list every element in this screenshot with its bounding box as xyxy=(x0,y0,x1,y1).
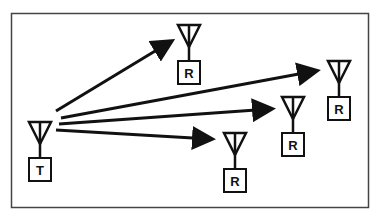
receiver-label: R xyxy=(230,174,240,189)
antenna-icon xyxy=(178,25,200,61)
signal-arrows xyxy=(56,42,315,139)
diagram-canvas: T R R R R xyxy=(0,0,377,216)
receiver-label: R xyxy=(334,102,344,117)
receiver-1: R xyxy=(178,25,200,84)
antenna-icon xyxy=(29,122,51,158)
antenna-icon xyxy=(224,133,246,169)
receiver-2: R xyxy=(328,61,350,120)
antenna-icon xyxy=(282,97,304,133)
receiver-3: R xyxy=(282,97,304,156)
transmitter-label: T xyxy=(36,163,44,178)
transmitter: T xyxy=(29,122,51,181)
receiver-label: R xyxy=(288,138,298,153)
antenna-icon xyxy=(328,61,350,97)
arrow-to-receiver-4 xyxy=(56,130,210,139)
receiver-label: R xyxy=(184,66,194,81)
receiver-4: R xyxy=(224,133,246,192)
